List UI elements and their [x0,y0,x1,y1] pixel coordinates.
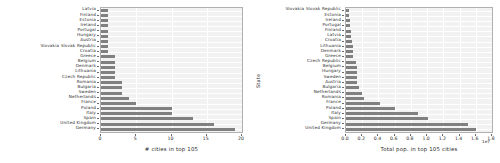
x-axis-title-left: # cities in top 105 [100,146,243,152]
x-tick-mark [377,134,378,136]
bar [346,112,418,115]
x-tick-mark [410,134,411,136]
x-tick-label: 0.8 [406,137,413,142]
y-tick-mark [97,15,99,16]
bar [346,81,357,84]
y-tick-mark [342,77,344,78]
x-tick-mark [475,134,476,136]
bar [101,9,108,12]
y-tick-mark [342,97,344,98]
bar [346,107,395,110]
y-tick-mark [97,128,99,129]
bar [346,30,351,33]
bar [101,112,172,115]
x-tick-mark [206,134,207,136]
y-tick-mark [342,56,344,57]
x-tick-mark [459,134,460,136]
bar [101,71,115,74]
bar [346,86,359,89]
y-tick-mark [342,128,344,129]
y-tick-mark [342,87,344,88]
x-tick-mark [345,134,346,136]
bar [346,61,356,64]
y-axis-labels-left: LatviaFinlandEstoniaIrelandPortugalHunga… [0,7,99,133]
x-tick-label: 0.6 [390,137,397,142]
y-tick-mark [97,87,99,88]
bar [101,102,136,105]
y-tick-mark [342,103,344,104]
bar [101,81,122,84]
x-tick-mark [426,134,427,136]
x-axis-title-right: Total pop. in top 105 cities [345,146,493,152]
y-tick-mark [342,123,344,124]
y-tick-mark [342,108,344,109]
x-tick-mark [171,134,172,136]
y-tick-mark [342,51,344,52]
x-tick-label: 1.4 [455,137,462,142]
x-tick-mark [491,134,492,136]
y-axis-labels-right: Slovakia Slovak RepublicEstoniaIrelandPo… [250,7,344,133]
bar [346,24,350,27]
x-tick-label: 0.4 [374,137,381,142]
bar [346,14,349,17]
panel-total-population: State Slovakia Slovak RepublicEstoniaIre… [250,0,500,163]
bar [101,117,193,120]
x-axis-ticks-right: 0.00.20.40.60.81.01.21.41.61.8 [345,134,493,146]
y-tick-mark [342,41,344,42]
y-tick-mark [97,77,99,78]
bar [346,117,428,120]
y-tick-mark [97,46,99,47]
y-tick-label: Germany [76,126,96,130]
x-tick-mark [135,134,136,136]
bar [101,24,108,27]
y-tick-mark [97,92,99,93]
y-tick-mark [97,123,99,124]
bar [346,66,357,69]
x-tick-mark [100,134,101,136]
figure-dual-bar-charts: LatviaFinlandEstoniaIrelandPortugalHunga… [0,0,500,163]
x-tick-label: 1.6 [471,137,478,142]
bar [346,92,362,95]
y-tick-mark [342,15,344,16]
gridline-vertical [492,8,493,132]
bar [101,76,115,79]
y-tick-mark [97,103,99,104]
y-tick-mark [342,61,344,62]
x-tick-label: 5 [134,137,137,142]
x-tick-label: 1.2 [439,137,446,142]
x-tick-mark [394,134,395,136]
bar [346,40,352,43]
y-tick-label: United Kingdom [305,126,341,130]
bar [101,50,108,53]
y-tick-mark [97,82,99,83]
bar [101,14,108,17]
plot-area-right [345,7,493,133]
x-tick-mark [442,134,443,136]
x-tick-label: 15 [203,137,209,142]
bar [346,102,380,105]
bar [101,97,129,100]
bar [101,55,115,58]
bar [101,19,108,22]
bar [101,86,122,89]
y-tick-mark [342,66,344,67]
y-tick-mark [342,10,344,11]
y-tick-mark [97,118,99,119]
bar [346,9,349,12]
bar [101,40,108,43]
y-tick-mark [97,72,99,73]
x-tick-mark [361,134,362,136]
y-tick-mark [97,56,99,57]
bar [346,71,357,74]
y-tick-mark [97,10,99,11]
y-tick-mark [97,20,99,21]
x-tick-label: 0 [99,137,102,142]
y-tick-mark [97,113,99,114]
y-tick-mark [342,92,344,93]
bar [346,97,364,100]
bar [101,35,108,38]
bar [101,128,235,131]
bar [346,45,353,48]
y-tick-mark [342,25,344,26]
x-axis-exponent-right: 1e7 [482,140,490,144]
